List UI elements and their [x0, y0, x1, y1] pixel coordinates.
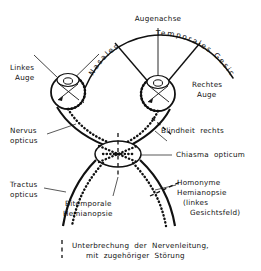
leader-tractus-opticus — [44, 188, 66, 192]
temporales-gesichtsfeld-arc-label: Temporales Gesichtsfeld — [0, 0, 237, 78]
left-optic-nerve-solid — [57, 107, 104, 145]
augenachse-label: Augenachse — [116, 14, 200, 24]
bitemporale-hemianopsie-label-line2: Hemianopsie — [63, 209, 113, 219]
homonyme-hemianopsie-label-line4: Gesichtsfeld) — [190, 208, 240, 218]
left-eye-pupil — [64, 78, 73, 84]
linkes-auge-label-line1: Linkes — [10, 63, 34, 73]
right-eye-group — [141, 76, 175, 112]
tractus-opticus-label-line2: opticus — [10, 190, 38, 200]
legend-caption-line2: mit zugehöriger Störung — [86, 251, 185, 261]
rechtes-auge-label-line1: Rechtes — [192, 80, 222, 90]
homonyme-hemianopsie-label-line1: Homonyme — [177, 178, 220, 188]
right-eye-pupil — [154, 80, 163, 86]
nasales-arc-label: Nasales — [87, 41, 121, 77]
leader-nervus-opticus — [47, 124, 76, 134]
homonyme-hemianopsie-label-line3: (linkes — [183, 198, 208, 208]
bitemporale-hemianopsie-label-line1: Bitemporale — [65, 199, 112, 209]
nervus-opticus-label-line2: opticus — [10, 136, 38, 146]
homonyme-hemianopsie-label-line2: Hemianopsie — [177, 188, 227, 198]
chiasma-opticum-label: Chiasma opticum — [176, 150, 245, 160]
tractus-opticus-label-line1: Tractus — [10, 180, 38, 190]
legend-caption-line1: Unterbrechung der Nervenleitung, — [72, 241, 209, 251]
nervus-opticus-label-line1: Nervus — [10, 126, 37, 136]
leader-bitemporale — [113, 177, 118, 196]
blindheit-rechts-label: Blindheit rechts — [161, 126, 224, 136]
left-eye-group — [51, 74, 85, 110]
visual-pathway-diagram: Nasales Temporales Gesichtsfeld — [0, 0, 261, 271]
rechtes-auge-label-line2: Auge — [197, 90, 216, 100]
linkes-auge-label-line2: Auge — [15, 73, 34, 83]
right-optic-tract-dotted — [133, 163, 166, 226]
